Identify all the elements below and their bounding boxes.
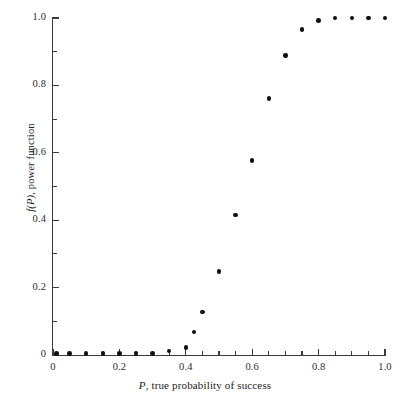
data-point xyxy=(54,351,59,356)
data-point xyxy=(383,16,388,21)
data-point xyxy=(333,16,338,21)
x-axis-title-text: , true probability of success xyxy=(146,379,272,391)
y-axis-title: f(P), power function xyxy=(25,48,36,288)
x-tick-label: 0.2 xyxy=(99,361,139,372)
data-point xyxy=(300,27,305,32)
y-tick-label: 0 xyxy=(12,348,46,359)
y-axis-title-text: , power function xyxy=(25,123,36,195)
plot-area xyxy=(53,18,385,355)
data-point xyxy=(84,351,89,356)
data-point xyxy=(316,18,321,23)
x-tick-label: 0.8 xyxy=(299,361,339,372)
y-tick-label: 1.0 xyxy=(12,11,46,22)
data-point xyxy=(366,16,371,21)
data-point xyxy=(134,351,139,356)
data-point xyxy=(283,53,288,58)
y-axis-title-symbol: f(P) xyxy=(25,195,36,212)
data-point xyxy=(250,158,255,163)
data-point xyxy=(217,269,222,274)
data-point xyxy=(192,330,197,335)
x-tick-label: 1.0 xyxy=(365,361,405,372)
data-point xyxy=(184,345,189,350)
data-point xyxy=(233,213,238,218)
x-tick-label: 0.4 xyxy=(166,361,206,372)
data-point xyxy=(67,351,72,356)
x-tick-label: 0 xyxy=(33,361,73,372)
x-axis-title: P, true probability of success xyxy=(0,379,410,391)
data-point xyxy=(200,310,205,315)
data-point xyxy=(267,96,272,101)
data-point xyxy=(167,349,172,354)
data-point xyxy=(350,16,355,21)
x-axis-title-symbol: P xyxy=(139,379,146,391)
x-tick-label: 0.6 xyxy=(232,361,272,372)
data-point xyxy=(101,351,106,356)
data-point xyxy=(150,351,155,356)
data-point xyxy=(117,351,122,356)
figure-canvas: 00.20.40.60.81.000.20.40.60.81.0 P, true… xyxy=(0,0,410,403)
